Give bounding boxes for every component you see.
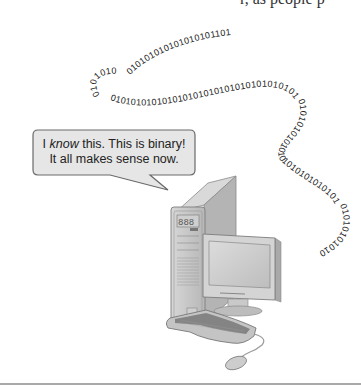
svg-text:01010101010: 01010101010 (318, 202, 352, 259)
svg-text:888: 888 (178, 218, 194, 228)
speech-prefix: I (43, 137, 50, 151)
speech-emphasis: know (50, 137, 79, 151)
speech-line-1: I know this. This is binary! (33, 137, 195, 152)
binary-computer-illustration: r, as people p 0101010101010101011011 01… (0, 0, 361, 386)
illustration-art: 0101010101010101011011 0101010 010101010… (0, 0, 361, 386)
speech-suffix: this. This is binary! (79, 137, 186, 151)
svg-text:0101010101010101011011: 0101010101010101011011 (0, 0, 231, 76)
bottom-divider (0, 383, 361, 385)
speech-line-2: It all makes sense now. (33, 152, 195, 167)
speech-bubble-text: I know this. This is binary! It all make… (33, 137, 195, 167)
